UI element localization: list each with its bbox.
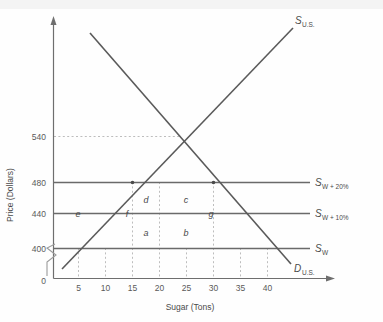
y-tick-540: 540 bbox=[32, 132, 46, 142]
x-tick-35: 35 bbox=[236, 283, 246, 293]
label-sw20-sub: W + 20% bbox=[322, 183, 349, 190]
annotation-e: e bbox=[75, 209, 80, 219]
label-sw-sub: W bbox=[322, 249, 329, 256]
label-d-us-main: D bbox=[294, 263, 301, 274]
label-sw: S W bbox=[315, 243, 329, 256]
y-axis-title: Price (Dollars) bbox=[5, 168, 15, 222]
label-sw-main: S bbox=[315, 243, 322, 254]
annotation-c: c bbox=[184, 195, 189, 205]
label-sw20-main: S bbox=[315, 177, 322, 188]
y-tick-480: 480 bbox=[32, 178, 46, 188]
annotation-d: d bbox=[143, 195, 149, 205]
x-tick-5: 5 bbox=[76, 283, 81, 293]
vertical-gridlines bbox=[79, 182, 268, 278]
label-s-us: S U.S. bbox=[295, 15, 315, 28]
y-axis-arrowhead bbox=[51, 16, 57, 25]
x-tick-30: 30 bbox=[209, 283, 219, 293]
label-d-us: D U.S. bbox=[294, 263, 315, 276]
scan-artifact-band bbox=[0, 0, 383, 9]
point-f-prime bbox=[131, 181, 135, 185]
curve-s-us bbox=[62, 28, 293, 269]
label-s-us-sub: U.S. bbox=[302, 21, 315, 28]
x-tick-10: 10 bbox=[101, 283, 111, 293]
chart-figure: 540 480 440 400 0 5 10 15 20 25 30 35 40… bbox=[0, 0, 383, 322]
x-axis-arrowhead bbox=[326, 276, 335, 282]
annotation-b: b bbox=[183, 228, 188, 238]
y-tick-400: 400 bbox=[32, 244, 46, 254]
label-sw10-main: S bbox=[315, 208, 322, 219]
annotation-a: a bbox=[143, 228, 148, 238]
x-tick-40: 40 bbox=[263, 283, 273, 293]
annotation-g: g bbox=[208, 209, 213, 219]
x-tick-15: 15 bbox=[128, 283, 138, 293]
point-g-prime bbox=[212, 181, 216, 185]
label-sw-plus-10: S W + 10% bbox=[315, 208, 349, 221]
label-sw10-sub: W + 10% bbox=[322, 214, 349, 221]
y-tick-zero: 0 bbox=[41, 276, 46, 286]
label-d-us-sub: U.S. bbox=[302, 269, 315, 276]
curve-d-us bbox=[90, 33, 291, 264]
label-s-us-main: S bbox=[295, 15, 302, 26]
x-tick-20: 20 bbox=[155, 283, 165, 293]
x-axis-title: Sugar (Tons) bbox=[166, 302, 215, 312]
y-tick-440: 440 bbox=[32, 209, 46, 219]
label-sw-plus-20: S W + 20% bbox=[315, 177, 349, 190]
x-tick-25: 25 bbox=[182, 283, 192, 293]
supply-demand-chart: 540 480 440 400 0 5 10 15 20 25 30 35 40… bbox=[0, 0, 383, 322]
